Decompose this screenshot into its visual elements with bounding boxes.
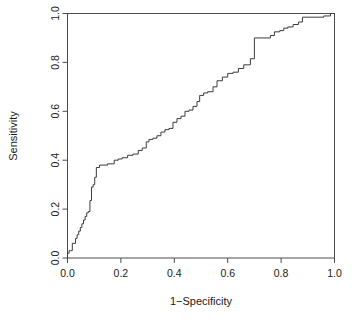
x-tick-label: 0.8 [274, 267, 289, 279]
y-tick-label: 0.8 [49, 55, 61, 70]
x-tick-label: 1.0 [327, 267, 342, 279]
x-tick-label: 0.2 [114, 267, 129, 279]
x-tick-label: 0.0 [60, 267, 75, 279]
x-axis-title: 1−Specificity [170, 295, 233, 307]
x-tick-label: 0.4 [167, 267, 182, 279]
roc-curve-plot: 0.00.20.40.60.81.0 0.00.20.40.60.81.0 1−… [0, 0, 356, 324]
y-tick-label: 1.0 [49, 6, 61, 21]
y-tick-label: 0.0 [49, 251, 61, 266]
y-axis-title: Sensitivity [7, 111, 19, 161]
x-tick-label: 0.6 [220, 267, 235, 279]
y-tick-label: 0.6 [49, 104, 61, 119]
y-tick-label: 0.2 [49, 202, 61, 217]
y-tick-label: 0.4 [49, 153, 61, 168]
